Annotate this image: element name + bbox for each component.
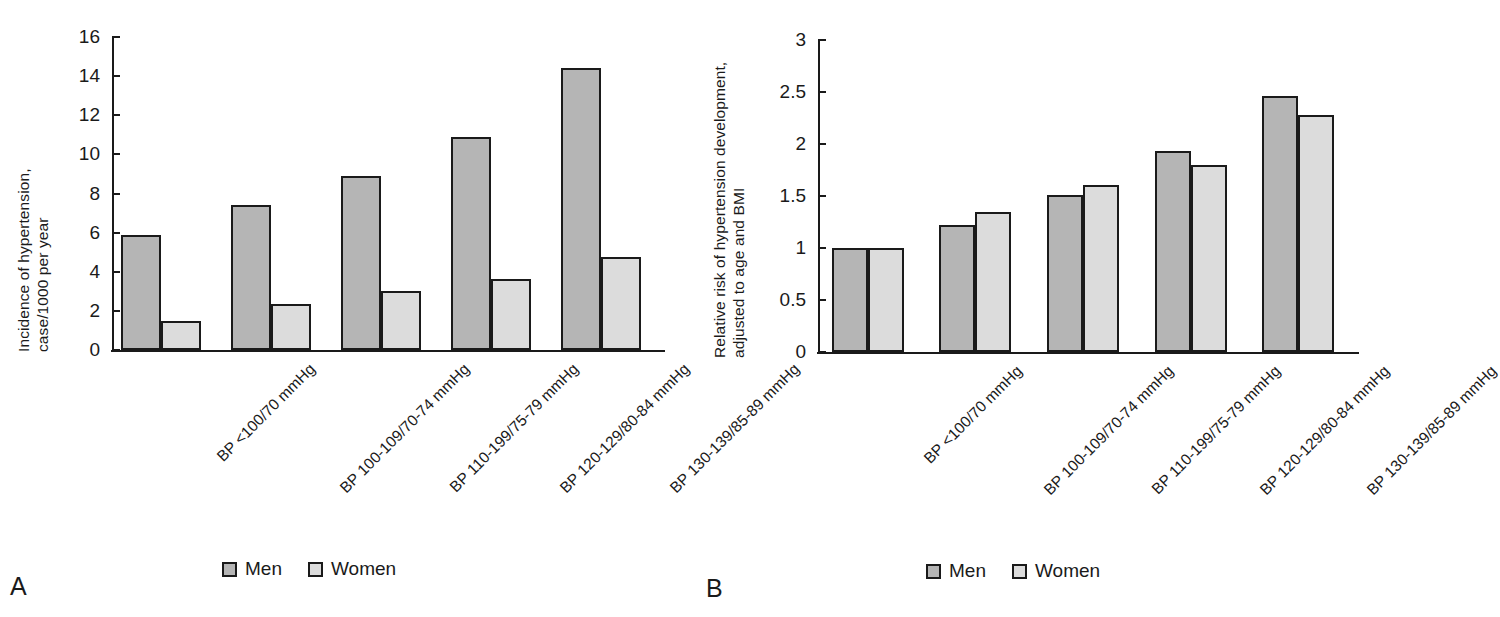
bar-group	[106, 37, 216, 350]
panel-b-y-axis-title: Relative risk of hypertension developmen…	[710, 62, 748, 358]
bar-group	[1244, 40, 1352, 352]
y-axis-title-line1: Incidence of hypertension,	[14, 168, 33, 352]
y-axis-title-line2: adjusted to age and BMI	[729, 62, 748, 358]
legend-item-women: Women	[1012, 560, 1100, 582]
bar-men[interactable]	[561, 68, 601, 350]
bar-group	[216, 37, 326, 350]
bar-women[interactable]	[601, 257, 641, 350]
legend-item-women: Women	[308, 558, 396, 580]
legend-swatch-men-icon	[222, 562, 237, 577]
x-axis-category-label: BP <100/70 mmHg	[213, 360, 318, 465]
legend-label-women: Women	[1035, 560, 1100, 582]
bar-women[interactable]	[491, 279, 531, 350]
y-tick-label: 3	[795, 29, 806, 51]
bar-women[interactable]	[1191, 165, 1227, 352]
x-axis-category-label: BP <100/70 mmHg	[920, 362, 1025, 467]
bar-women[interactable]	[1298, 115, 1334, 352]
y-tick-label: 2	[89, 300, 100, 322]
y-tick-label: 2	[795, 133, 806, 155]
bar-group	[814, 40, 922, 352]
bar-group	[436, 37, 546, 350]
bar-men[interactable]	[939, 225, 975, 352]
bar-men[interactable]	[341, 176, 381, 350]
bar-women[interactable]	[868, 248, 904, 352]
bar-group	[546, 37, 656, 350]
bar-men[interactable]	[832, 248, 868, 352]
bar-women[interactable]	[161, 321, 201, 350]
y-tick-label: 0.5	[780, 289, 806, 311]
bar-group	[326, 37, 436, 350]
y-tick-label: 14	[79, 65, 100, 87]
panel-a-bar-groups	[114, 37, 664, 350]
bar-men[interactable]	[231, 205, 271, 350]
bar-men[interactable]	[1047, 195, 1083, 352]
bar-women[interactable]	[975, 212, 1011, 352]
legend-item-men: Men	[926, 560, 986, 582]
panel-a-x-axis-line	[111, 350, 665, 352]
panel-a-legend: Men Women	[222, 558, 396, 580]
y-tick-label: 12	[79, 104, 100, 126]
legend-label-men: Men	[949, 560, 986, 582]
bar-group	[1029, 40, 1137, 352]
y-axis-title-line1: Relative risk of hypertension developmen…	[710, 62, 729, 358]
legend-swatch-women-icon	[308, 562, 323, 577]
panel-letter-b: B	[706, 574, 723, 603]
panel-b-plot-area: 00.511.522.53	[818, 40, 1358, 352]
bar-group	[922, 40, 1030, 352]
y-tick-label: 16	[79, 26, 100, 48]
panel-b-bar-groups	[820, 40, 1358, 352]
y-tick-label: 2.5	[780, 81, 806, 103]
y-axis-title-line2: case/1000 per year	[33, 168, 52, 352]
legend-swatch-women-icon	[1012, 564, 1027, 579]
bar-women[interactable]	[381, 291, 421, 350]
bar-group	[1137, 40, 1245, 352]
panel-a-y-axis-title: Incidence of hypertension, case/1000 per…	[14, 168, 52, 352]
bar-women[interactable]	[1083, 185, 1119, 352]
bar-women[interactable]	[271, 304, 311, 350]
legend-item-men: Men	[222, 558, 282, 580]
legend-swatch-men-icon	[926, 564, 941, 579]
y-tick-label: 4	[89, 261, 100, 283]
y-tick-label: 8	[89, 183, 100, 205]
y-tick-label: 1	[795, 237, 806, 259]
panel-a: Incidence of hypertension, case/1000 per…	[0, 0, 698, 617]
bar-men[interactable]	[1155, 151, 1191, 352]
bar-men[interactable]	[1262, 96, 1298, 352]
y-tick-label: 0	[89, 339, 100, 361]
panel-b: Relative risk of hypertension developmen…	[698, 0, 1396, 617]
x-axis-category-label: BP 110-199/75-79 mmHg	[446, 360, 582, 496]
legend-label-men: Men	[245, 558, 282, 580]
y-tick-label: 6	[89, 222, 100, 244]
panel-a-plot-area: 0246810121416	[112, 37, 664, 350]
bar-men[interactable]	[451, 137, 491, 350]
y-tick-label: 0	[795, 341, 806, 363]
panel-letter-a: A	[10, 572, 27, 601]
bar-men[interactable]	[121, 235, 161, 350]
y-tick-label: 1.5	[780, 185, 806, 207]
panel-b-x-axis-line	[817, 352, 1359, 354]
panel-b-legend: Men Women	[926, 560, 1100, 582]
y-tick-label: 10	[79, 143, 100, 165]
legend-label-women: Women	[331, 558, 396, 580]
